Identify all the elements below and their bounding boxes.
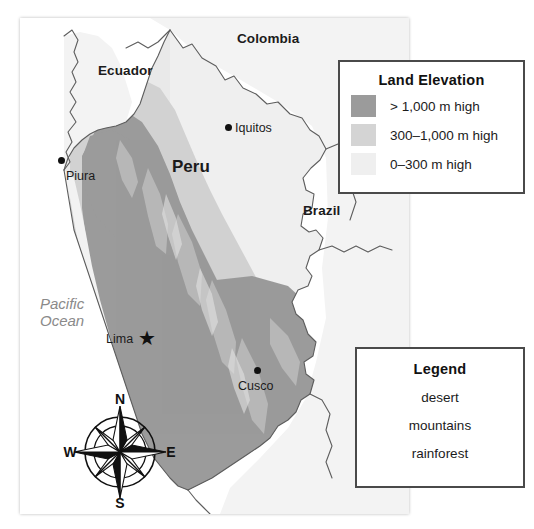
legend-entry-desert: desert: [357, 390, 523, 405]
land-elevation-row: 300–1,000 m high: [340, 124, 523, 146]
elevation-label-mid: 300–1,000 m high: [390, 128, 498, 143]
elevation-label-low: 0–300 m high: [390, 157, 472, 172]
country-label-ecuador: Ecuador: [98, 64, 153, 78]
city-label-iquitos: Iquitos: [235, 122, 272, 135]
compass-label-west: W: [63, 444, 77, 460]
elevation-swatch-low: [351, 153, 376, 175]
land-elevation-row: 0–300 m high: [340, 153, 523, 175]
ocean-label-line-1: Pacific: [40, 295, 84, 312]
legend-entry-rainforest: rainforest: [357, 446, 523, 461]
ocean-label: Pacific Ocean: [40, 296, 118, 330]
capital-marker-lima: ★: [138, 328, 156, 348]
city-marker-cusco: [254, 367, 261, 374]
city-label-cusco: Cusco: [238, 380, 273, 393]
city-label-piura: Piura: [66, 170, 95, 183]
legend-box: Legend desert mountains rainforest: [355, 347, 525, 488]
land-elevation-legend: Land Elevation > 1,000 m high 300–1,000 …: [338, 60, 525, 194]
city-marker-iquitos: [225, 124, 232, 131]
legend-title: Legend: [357, 361, 523, 377]
land-elevation-title: Land Elevation: [340, 72, 523, 88]
land-elevation-row: > 1,000 m high: [340, 95, 523, 117]
elevation-swatch-high: [351, 95, 376, 117]
compass-label-south: S: [115, 495, 124, 511]
city-label-lima: Lima: [106, 333, 133, 346]
country-label-peru: Peru: [172, 158, 210, 175]
compass-cardinal-points: [74, 406, 166, 498]
ocean-label-line-2: Ocean: [40, 312, 84, 329]
compass-rose: N S E W: [62, 390, 178, 512]
city-marker-piura: [58, 157, 65, 164]
compass-label-east: E: [166, 444, 175, 460]
elevation-swatch-mid: [351, 124, 376, 146]
legend-entry-mountains: mountains: [357, 418, 523, 433]
country-label-colombia: Colombia: [237, 32, 299, 46]
elevation-label-high: > 1,000 m high: [390, 99, 480, 114]
country-label-brazil: Brazil: [303, 204, 340, 218]
compass-label-north: N: [115, 391, 125, 407]
